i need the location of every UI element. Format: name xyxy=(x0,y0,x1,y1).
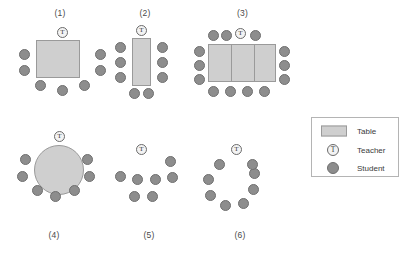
student-marker xyxy=(194,46,205,57)
student-marker xyxy=(220,200,231,211)
legend: Table T Teacher Student xyxy=(311,117,399,177)
arrangement-4: T (4) xyxy=(12,128,112,248)
arrangement-5-label: (5) xyxy=(109,230,189,240)
student-marker xyxy=(132,174,143,185)
legend-item-teacher: T Teacher xyxy=(312,140,398,160)
student-marker xyxy=(157,42,168,53)
arrangement-3: (3) T xyxy=(190,8,295,108)
arrangement-4-label: (4) xyxy=(4,230,104,240)
student-marker xyxy=(194,60,205,71)
student-marker xyxy=(167,172,178,183)
student-marker xyxy=(115,57,126,68)
student-marker xyxy=(84,171,95,182)
student-marker xyxy=(17,171,28,182)
student-marker xyxy=(208,86,219,97)
arrangement-1-plot: T xyxy=(10,22,110,122)
arrangement-2-label: (2) xyxy=(105,8,185,18)
arrangement-6-label: (6) xyxy=(200,230,280,240)
legend-item-student: Student xyxy=(312,158,398,178)
student-marker xyxy=(157,57,168,68)
arrangement-5: T (5) xyxy=(110,140,190,248)
student-marker xyxy=(165,156,176,167)
student-marker xyxy=(115,42,126,53)
student-marker xyxy=(143,88,154,99)
student-marker xyxy=(129,191,140,202)
student-marker xyxy=(82,154,93,165)
student-marker xyxy=(50,191,61,202)
student-marker xyxy=(205,190,216,201)
student-marker xyxy=(203,174,214,185)
student-marker xyxy=(35,80,46,91)
student-marker xyxy=(147,191,158,202)
teacher-swatch-icon: T xyxy=(327,144,339,156)
arrangement-3-label: (3) xyxy=(190,8,295,18)
student-marker xyxy=(150,174,161,185)
student-marker xyxy=(69,185,80,196)
student-marker xyxy=(250,30,261,41)
student-marker xyxy=(194,74,205,85)
student-marker xyxy=(208,30,219,41)
arrangement-2: (2) T xyxy=(105,8,185,108)
table-divider xyxy=(231,45,232,81)
student-marker xyxy=(32,185,43,196)
student-marker xyxy=(214,159,225,170)
student-marker xyxy=(259,86,270,97)
arrangement-1-label: (1) xyxy=(10,8,110,18)
student-marker xyxy=(248,184,259,195)
student-marker xyxy=(157,72,168,83)
table-square xyxy=(36,40,80,78)
student-marker xyxy=(57,85,68,96)
diagram-canvas: (1) T (2) T (3) xyxy=(0,0,407,257)
arrangement-6: T (6) xyxy=(200,140,280,248)
teacher-marker: T xyxy=(57,27,68,38)
student-marker xyxy=(279,60,290,71)
student-marker xyxy=(19,49,30,60)
arrangement-3-plot: T xyxy=(190,22,295,122)
table-rectangle-vertical xyxy=(132,38,151,86)
legend-item-table: Table xyxy=(312,121,398,141)
student-swatch-icon xyxy=(327,162,339,174)
teacher-marker: T xyxy=(136,25,147,36)
legend-label-table: Table xyxy=(357,127,376,136)
teacher-marker: T xyxy=(54,131,65,142)
student-marker xyxy=(20,154,31,165)
student-marker xyxy=(221,30,232,41)
student-marker xyxy=(79,80,90,91)
student-marker xyxy=(247,159,258,170)
student-marker xyxy=(242,86,253,97)
arrangement-2-plot: T xyxy=(105,22,185,122)
table-rectangle-joined xyxy=(208,44,276,82)
teacher-marker: T xyxy=(231,144,242,155)
student-marker xyxy=(129,88,140,99)
student-marker xyxy=(238,198,249,209)
legend-label-teacher: Teacher xyxy=(357,146,385,155)
student-marker xyxy=(115,72,126,83)
student-marker xyxy=(19,65,30,76)
student-marker xyxy=(279,46,290,57)
legend-label-student: Student xyxy=(357,164,385,173)
teacher-marker: T xyxy=(136,144,147,155)
table-divider xyxy=(254,45,255,81)
student-marker xyxy=(225,86,236,97)
student-marker xyxy=(279,74,290,85)
student-marker xyxy=(115,171,126,182)
teacher-marker: T xyxy=(235,28,246,39)
table-swatch-icon xyxy=(321,126,347,137)
arrangement-1: (1) T xyxy=(10,8,110,108)
